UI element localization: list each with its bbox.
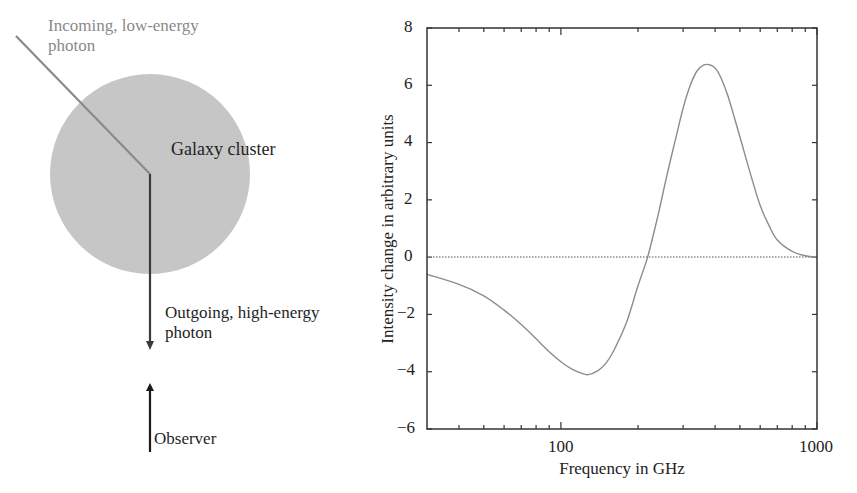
x-tick-label: 1000 (799, 437, 833, 457)
y-tick-label: −4 (397, 360, 415, 380)
y-tick-label: 0 (404, 246, 413, 266)
sz-spectrum-chart (0, 0, 857, 493)
y-tick-label: 8 (404, 17, 413, 37)
plot-frame (427, 28, 817, 429)
x-axis-label: Frequency in GHz (559, 459, 685, 479)
y-tick-label: 2 (404, 189, 413, 209)
data-series-line (427, 64, 817, 374)
figure: Incoming, low-energy photon Galaxy clust… (0, 0, 857, 493)
y-tick-label: 4 (404, 131, 413, 151)
y-tick-label: −2 (397, 303, 415, 323)
y-tick-label: −6 (397, 418, 415, 438)
axis-ticks (427, 28, 817, 429)
y-tick-label: 6 (404, 74, 413, 94)
x-tick-label: 100 (548, 437, 574, 457)
y-axis-label: Intensity change in arbitrary units (378, 114, 398, 343)
